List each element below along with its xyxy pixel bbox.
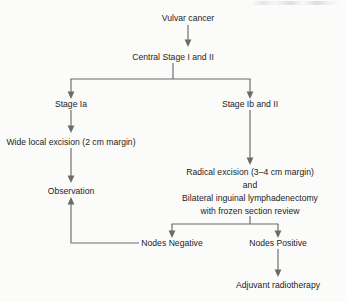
edge-excision-to-observation <box>68 148 75 183</box>
node-radical-excision-block: Radical excision (3–4 cm margin) and Bil… <box>182 167 319 216</box>
node-stage-ib-and-ii: Stage Ib and II <box>222 99 278 109</box>
node-wide-local-excision: Wide local excision (2 cm margin) <box>6 137 135 147</box>
node-central-stage-i-and-ii: Central Stage I and II <box>132 52 214 62</box>
node-vulvar-cancer: Vulvar cancer <box>162 13 215 23</box>
edge-nodesnegative-to-observation <box>68 197 139 244</box>
node-adjuvant-radiotherapy: Adjuvant radiotherapy <box>236 280 321 290</box>
node-radical-excision-line-3: Bilateral inguinal lymphadenectomy <box>182 193 319 203</box>
edge-radical-branch-bar <box>169 216 282 238</box>
node-radical-excision-line-2: and <box>243 180 258 190</box>
flowchart-figure: Vulvar cancer Central Stage I and II Sta… <box>0 0 345 302</box>
node-observation: Observation <box>48 186 95 196</box>
node-radical-excision-line-4: with frozen section review <box>200 206 301 216</box>
edge-nodespositive-to-radiotherapy <box>275 249 282 277</box>
flowchart-canvas: Vulvar cancer Central Stage I and II Sta… <box>0 0 345 302</box>
node-nodes-negative: Nodes Negative <box>141 238 203 248</box>
node-stage-ia: Stage Ia <box>55 99 87 109</box>
edge-stageib-to-radical <box>247 110 254 165</box>
edge-vulvar-to-central <box>185 25 192 47</box>
edge-stageia-to-excision <box>68 110 75 133</box>
node-nodes-positive: Nodes Positive <box>249 238 307 248</box>
node-radical-excision-line-1: Radical excision (3–4 cm margin) <box>186 167 314 177</box>
edge-central-branch-bar <box>68 63 254 99</box>
